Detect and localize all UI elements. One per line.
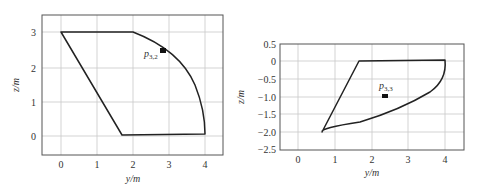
right-ytick: −2.5 — [258, 144, 276, 155]
right-ytick: −1.0 — [258, 92, 276, 103]
left-xtick: 0 — [59, 159, 64, 170]
right-plot: 0.5 0 −0.5 −1.0 −1.5 −2.0 −2.5 0 1 2 3 4… — [235, 39, 464, 179]
right-ytick: −1.5 — [258, 109, 276, 120]
left-ytick: 0 — [31, 131, 36, 142]
right-ytick: 0 — [271, 56, 276, 67]
left-xtick: 3 — [167, 159, 172, 170]
left-y-axis-label: z/m — [10, 78, 21, 93]
left-xtick: 4 — [203, 159, 208, 170]
left-ytick: 3 — [31, 27, 36, 38]
right-ytick: 0.5 — [264, 39, 277, 50]
right-y-axis-label: z/m — [235, 90, 246, 105]
left-point-label: p3,2 — [143, 48, 158, 61]
left-xtick: 2 — [131, 159, 136, 170]
left-x-axis-label: y/m — [125, 173, 140, 184]
left-xtick: 1 — [95, 159, 100, 170]
right-xtick: 1 — [333, 154, 338, 165]
left-ytick: 1 — [31, 97, 36, 108]
left-plot: 3 2 1 0 0 1 2 3 4 y/m z/m p3,2 — [10, 15, 223, 184]
right-ytick: −0.5 — [258, 74, 276, 85]
left-ytick: 2 — [31, 63, 36, 74]
left-point-marker — [160, 48, 166, 53]
right-x-axis-label: y/m — [364, 167, 379, 178]
right-ytick: −2.0 — [258, 127, 276, 138]
figure: 3 2 1 0 0 1 2 3 4 y/m z/m p3,2 — [0, 0, 479, 195]
right-xtick: 0 — [296, 154, 301, 165]
right-xtick: 4 — [443, 154, 448, 165]
right-point-marker — [382, 94, 388, 98]
right-point-label: p3,3 — [378, 80, 393, 93]
right-xtick: 2 — [370, 154, 375, 165]
right-xtick: 3 — [406, 154, 411, 165]
